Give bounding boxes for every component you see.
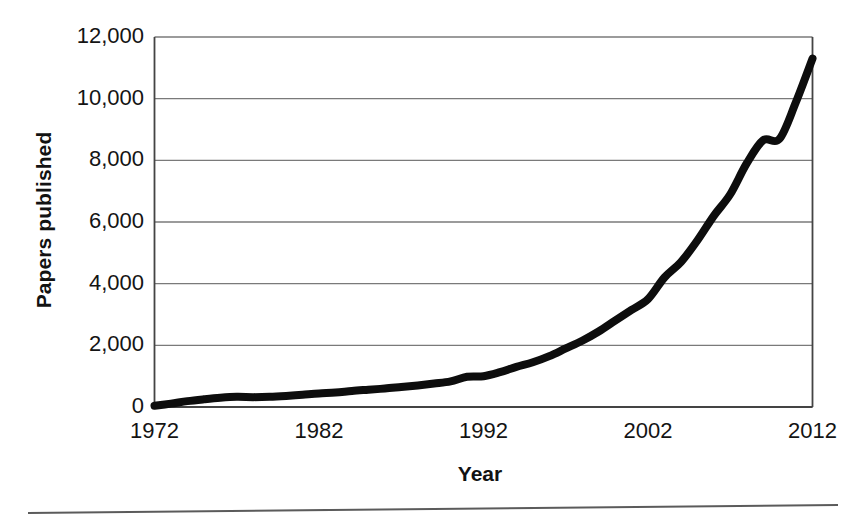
y-axis-tick-label: 2,000 bbox=[46, 333, 144, 355]
y-axis-tick-label: 6,000 bbox=[46, 210, 144, 232]
y-axis-tick-label: 12,000 bbox=[46, 25, 144, 47]
x-axis-tick-labels: 19721982199220022012 bbox=[0, 419, 857, 453]
y-axis-tick-label: 8,000 bbox=[46, 148, 144, 170]
y-axis-tick-label: 4,000 bbox=[46, 272, 144, 294]
y-axis-tick-label: 10,000 bbox=[46, 87, 144, 109]
y-axis-tick-label: 0 bbox=[46, 395, 144, 417]
x-axis-tick-label: 2012 bbox=[763, 419, 857, 443]
x-axis-tick-label: 2002 bbox=[598, 419, 698, 443]
page-footer-rule bbox=[28, 505, 838, 513]
x-axis-title: Year bbox=[380, 462, 580, 486]
data-series-line bbox=[155, 59, 813, 406]
x-axis-tick-label: 1972 bbox=[105, 419, 205, 443]
chart-figure: Papers published 02,0004,0006,0008,00010… bbox=[0, 0, 857, 531]
x-axis-tick-label: 1982 bbox=[269, 419, 369, 443]
x-axis-tick-label: 1992 bbox=[434, 419, 534, 443]
